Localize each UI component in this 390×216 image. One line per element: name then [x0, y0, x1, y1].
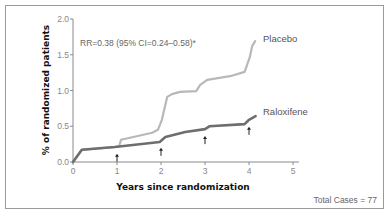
x-tick-label: 5 [291, 166, 296, 176]
series-group [73, 41, 256, 162]
raloxifene-line [73, 116, 256, 162]
relative-risk-annotation: RR=0.38 (95% CI=0.24–0.58)* [80, 38, 196, 48]
x-tick-label: 4 [247, 166, 252, 176]
placebo-label: Placebo [263, 33, 297, 44]
x-tick-label: 3 [203, 166, 208, 176]
y-tick-label: 1.0 [57, 86, 69, 96]
y-tick-label: 2.0 [57, 14, 69, 24]
y-axis-title: % of randomized patients [41, 25, 51, 155]
arrow-head-icon [159, 148, 163, 151]
total-cases-footer: Total Cases = 77 [313, 195, 377, 205]
x-tick-label: 1 [115, 166, 120, 176]
arrow-head-icon [247, 127, 251, 130]
placebo-line [73, 41, 255, 162]
raloxifene-label: Raloxifene [263, 106, 308, 117]
chart: 0.00.51.01.52.0012345 RR=0.38 (95% CI=0.… [0, 0, 390, 216]
x-tick-label: 0 [71, 166, 76, 176]
y-tick-label: 1.5 [57, 50, 69, 60]
y-tick-label: 0.5 [57, 121, 69, 131]
x-tick-label: 2 [159, 166, 164, 176]
y-tick-label: 0.0 [57, 157, 69, 167]
x-axis-title: Years since randomization [115, 182, 250, 192]
arrow-head-icon [115, 154, 119, 157]
arrow-head-icon [203, 136, 207, 139]
